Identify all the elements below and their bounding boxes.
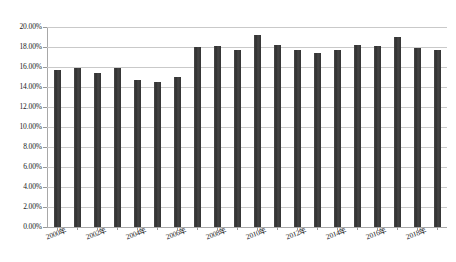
- x-axis-tick-label: 2008年: [204, 224, 228, 242]
- x-axis-tick-mark: [317, 227, 318, 230]
- x-axis-tick-mark: [117, 227, 118, 230]
- x-axis-tick-mark: [157, 227, 158, 230]
- x-axis-tick-label: 2012年: [284, 224, 308, 242]
- x-axis-tick-mark: [237, 227, 238, 230]
- bar-chart-figure: 0.00%2.00%4.00%6.00%8.00%10.00%12.00%14.…: [0, 0, 456, 262]
- x-axis-tick-mark: [437, 227, 438, 230]
- x-axis-tick-label: 2000年: [44, 224, 68, 242]
- x-axis-tick-mark: [197, 227, 198, 230]
- x-axis-tick-label: 2002年: [84, 224, 108, 242]
- x-axis-tick-label: 2018年: [404, 224, 428, 242]
- x-axis-tick-mark: [77, 227, 78, 230]
- x-axis-tick-mark: [277, 227, 278, 230]
- x-axis-tick-label: 2016年: [364, 224, 388, 242]
- x-axis-tick-mark: [357, 227, 358, 230]
- x-axis-tick-mark: [397, 227, 398, 230]
- x-axis-tick-label: 2004年: [124, 224, 148, 242]
- x-axis-tick-label: 2006年: [164, 224, 188, 242]
- x-axis-tick-label: 2014年: [324, 224, 348, 242]
- x-axis-tick-label: 2010年: [244, 224, 268, 242]
- x-axis-tick-labels: 2000年2002年2004年2006年2008年2010年2012年2014年…: [0, 0, 456, 262]
